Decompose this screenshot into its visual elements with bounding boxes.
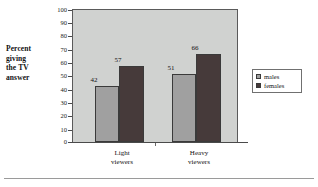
- y-tick-label-80: 80: [51, 33, 67, 40]
- bar-light-viewers-females: [119, 66, 144, 142]
- y-tick-label-50: 50: [51, 73, 67, 80]
- y-tick-label-60: 60: [51, 60, 67, 67]
- value-label-heavy-females: 66: [185, 45, 205, 52]
- value-label-light-males: 42: [84, 77, 104, 84]
- x-category-label-light-viewers: Light viewers: [92, 149, 152, 167]
- legend-item-females: females: [256, 81, 298, 90]
- y-tick-label-0: 0: [51, 139, 67, 146]
- x-axis-line: [68, 142, 248, 143]
- bar-heavy-viewers-males: [172, 74, 196, 142]
- y-tick-label-90: 90: [51, 20, 67, 27]
- legend-item-males: males: [256, 72, 298, 81]
- male-swatch-icon: [256, 74, 261, 79]
- x-category-heavy-line-1: Heavy: [169, 149, 229, 158]
- value-label-heavy-males: 51: [161, 65, 181, 72]
- y-tick-label-20: 20: [51, 113, 67, 120]
- female-swatch-icon: [256, 83, 261, 88]
- y-tick-label-10: 10: [51, 127, 67, 134]
- y-tick-label-40: 40: [51, 87, 67, 94]
- value-label-light-females: 57: [108, 57, 128, 64]
- x-category-light-line-1: Light: [92, 149, 152, 158]
- y-tick-label-70: 70: [51, 47, 67, 54]
- x-category-label-heavy-viewers: Heavy viewers: [169, 149, 229, 167]
- x-category-light-line-2: viewers: [92, 158, 152, 167]
- x-axis-mid-tick: [155, 143, 156, 146]
- chart-legend: males females: [252, 69, 302, 93]
- y-tick-label-30: 30: [51, 100, 67, 107]
- bottom-divider: [4, 178, 314, 179]
- legend-label-females: females: [264, 81, 284, 90]
- bar-heavy-viewers-females: [196, 54, 221, 142]
- y-tick-label-100: 100: [51, 7, 67, 14]
- x-category-heavy-line-2: viewers: [169, 158, 229, 167]
- legend-label-males: males: [264, 72, 279, 81]
- bar-light-viewers-males: [95, 86, 119, 142]
- bar-chart-figure: Percent giving the TV answer 100 90 80 7…: [0, 0, 318, 187]
